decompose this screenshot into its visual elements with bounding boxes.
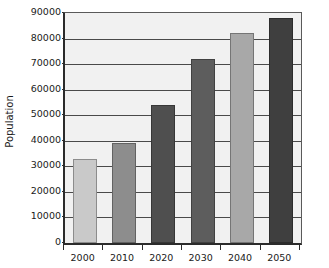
bar-2040: [230, 33, 254, 243]
bar-cell: [222, 13, 261, 243]
y-axis-tick-label: 30000: [31, 161, 61, 171]
x-axis-tick-mark: [220, 244, 221, 250]
x-axis-tick-label: 2040: [228, 253, 252, 263]
y-axis-tick-label: 50000: [31, 109, 61, 119]
x-axis-tick-label: 2050: [267, 253, 291, 263]
y-axis-title-text: Population: [4, 95, 15, 148]
bar-2020: [151, 105, 175, 243]
x-axis-tick-label: 2030: [189, 253, 213, 263]
x-axis-tick-group: 200020102020203020402050: [63, 244, 301, 268]
y-axis-tick-label: 20000: [31, 186, 61, 196]
bar-cell: [262, 13, 301, 243]
bar-cell: [65, 13, 104, 243]
x-axis-tick-label: 2020: [149, 253, 173, 263]
y-axis-tick-group: 0100002000030000400005000060000700008000…: [16, 0, 61, 268]
x-axis-tick-label: 2000: [71, 253, 95, 263]
y-axis-tick-label: 40000: [31, 135, 61, 145]
y-axis-tick-label: 70000: [31, 58, 61, 68]
plot-area: [63, 12, 302, 245]
x-axis-tick-mark: [260, 244, 261, 250]
y-axis-tick-label: 60000: [31, 84, 61, 94]
bar-chart: Population 01000020000300004000050000600…: [0, 0, 329, 268]
bar-2000: [73, 159, 97, 243]
bar-cell: [183, 13, 222, 243]
x-axis-tick-mark: [102, 244, 103, 250]
x-axis-tick-mark: [63, 244, 64, 250]
bar-cell: [144, 13, 183, 243]
y-axis-tick-label: 80000: [31, 33, 61, 43]
y-axis-tick-label: 90000: [31, 7, 61, 17]
y-axis-tick-label: 0: [55, 237, 61, 247]
bar-2010: [112, 143, 136, 243]
bar-series: [65, 13, 301, 243]
x-axis-tick-label: 2010: [110, 253, 134, 263]
bar-2030: [191, 59, 215, 243]
x-axis-tick-mark: [142, 244, 143, 250]
bar-cell: [104, 13, 143, 243]
bar-2050: [269, 18, 293, 243]
x-axis-tick-mark: [299, 244, 300, 250]
y-axis-tick-label: 10000: [31, 212, 61, 222]
x-axis-tick-mark: [181, 244, 182, 250]
